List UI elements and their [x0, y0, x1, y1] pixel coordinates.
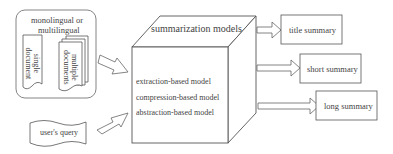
model-item: abstraction-based model: [136, 109, 214, 117]
single-document-line2: document: [24, 43, 32, 83]
title-summary-label: title summary: [289, 26, 336, 35]
multi-document-line1: multiple: [70, 47, 78, 87]
long-summary-label: long summary: [324, 102, 373, 111]
single-document-label: single document: [24, 43, 41, 83]
short-summary-label: short summary: [307, 65, 358, 74]
query-arrow-icon: [97, 113, 128, 134]
output-arrow-short-icon: [257, 60, 300, 76]
query-label: user's query: [40, 129, 78, 137]
output-arrow-long-icon: [258, 98, 319, 114]
group-label-line1: monolingual or: [31, 16, 83, 25]
model-item: compression-based model: [136, 94, 219, 102]
input-arrow-icon: [98, 55, 128, 74]
multi-document-line2: documents: [62, 47, 70, 87]
single-document-line1: single: [32, 43, 40, 83]
group-label-line2: multilingual: [38, 26, 80, 35]
cube-title: summarization models: [151, 24, 242, 34]
model-item: extraction-based model: [136, 78, 211, 86]
output-arrow-title-icon: [257, 22, 281, 38]
multi-document-label: multiple documents: [62, 47, 79, 87]
